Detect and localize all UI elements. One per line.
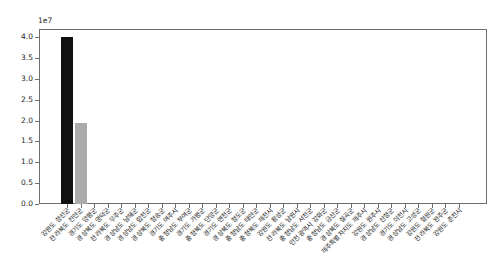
y-axis-tick-label: 0.5 — [0, 179, 33, 187]
y-axis-tick-mark — [35, 79, 39, 80]
y-axis-tick-label: 1.0 — [0, 158, 33, 166]
y-axis-tick-label: 1.5 — [0, 137, 33, 145]
y-axis-tick-mark — [35, 37, 39, 38]
y-axis-tick-mark — [35, 183, 39, 184]
y-axis-tick-mark — [35, 121, 39, 122]
y-axis-tick-label: 0.0 — [0, 200, 33, 208]
bar — [75, 123, 87, 204]
y-axis-tick-mark — [35, 100, 39, 101]
y-axis-tick-label: 2.5 — [0, 96, 33, 104]
y-axis-tick-label: 2.0 — [0, 117, 33, 125]
y-axis-tick-mark — [35, 162, 39, 163]
bar-chart-figure: 1e7 0.00.51.01.52.02.53.03.54.0 강원도 정선군전… — [0, 0, 495, 269]
y-axis-tick-label: 3.5 — [0, 54, 33, 62]
y-axis-tick-mark — [35, 141, 39, 142]
y-axis-tick-label: 3.0 — [0, 75, 33, 83]
y-axis-tick-mark — [35, 58, 39, 59]
plot-area — [39, 29, 487, 204]
y-axis-tick-label: 4.0 — [0, 33, 33, 41]
y-axis-offset-text: 1e7 — [38, 16, 52, 25]
y-axis-tick-mark — [35, 204, 39, 205]
bar — [61, 37, 73, 204]
